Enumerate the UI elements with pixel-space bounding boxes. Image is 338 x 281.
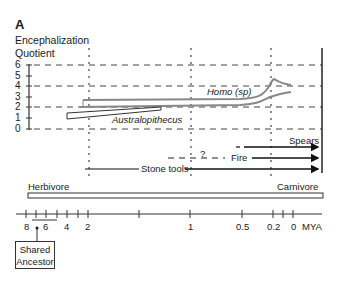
time-tick-0: 0	[291, 222, 296, 232]
fire-label: Fire	[231, 153, 247, 163]
carnivore-label: Carnivore	[277, 182, 318, 192]
time-tick-4: 4	[64, 222, 69, 232]
time-tick-2: 2	[85, 222, 90, 232]
stone-tools-label: Stone tools	[141, 164, 189, 174]
shared-ancestor-line1: Shared	[16, 244, 54, 256]
herbivore-label: Herbivore	[28, 182, 69, 192]
time-tick-1: 1	[188, 222, 193, 232]
fire-uncertain-label: ?	[200, 149, 205, 159]
time-tick-0-5: 0.5	[236, 222, 249, 232]
australopithecus-label: Australopithecus	[112, 115, 182, 125]
diagram-graphics	[0, 0, 338, 281]
time-tick-0-2: 0.2	[267, 222, 280, 232]
shared-ancestor-line2: Ancestor	[16, 256, 54, 268]
shared-ancestor-box: Shared Ancestor	[15, 241, 55, 269]
homo-label: Homo (sp)	[207, 87, 251, 97]
time-unit-label: MYA	[302, 222, 322, 232]
time-tick-8: 8	[24, 222, 29, 232]
spears-label: Spears	[289, 136, 319, 146]
time-tick-6: 6	[43, 222, 48, 232]
